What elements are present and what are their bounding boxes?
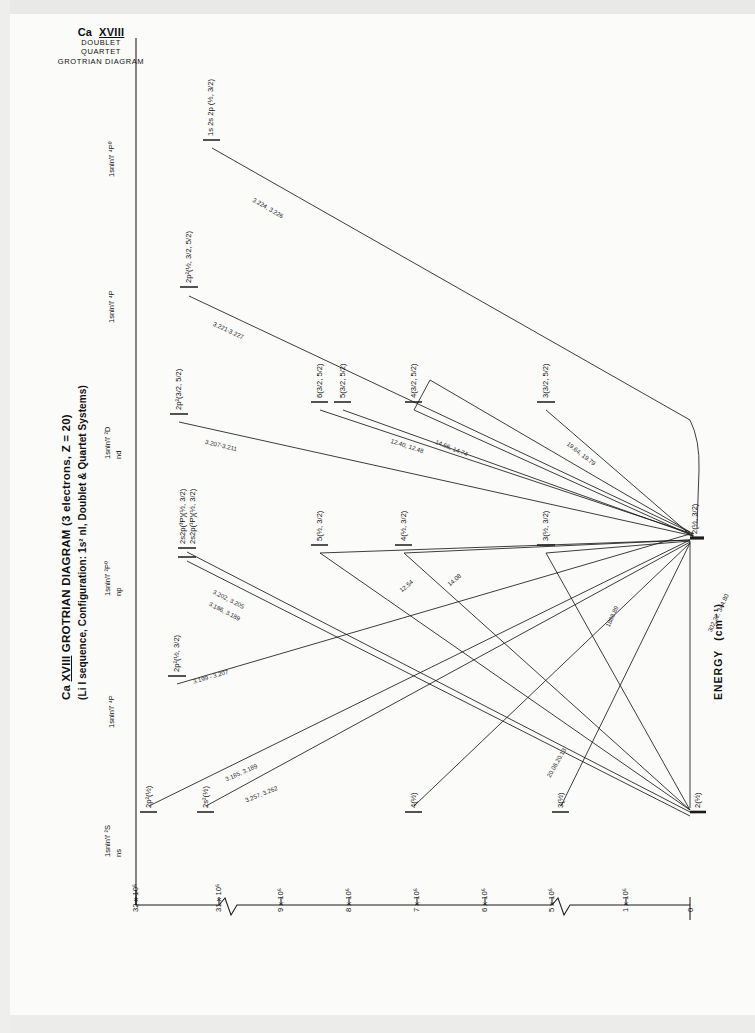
transition-line bbox=[414, 410, 693, 536]
column-sub-c4: np bbox=[114, 588, 123, 596]
level-label-L12: 3(½, 3/2) bbox=[541, 511, 550, 541]
transition-line bbox=[187, 561, 690, 816]
transition-line bbox=[320, 553, 690, 810]
level-label-L15: 2p²(½) bbox=[144, 786, 153, 808]
column-term-c3: 1snln'l' ²D bbox=[103, 427, 112, 459]
level-label-L4: 6(3/2, 5/2) bbox=[315, 363, 324, 398]
column-term-c1: 1snln'l' ⁴Pº bbox=[107, 141, 116, 177]
column-sub-c3: nd bbox=[114, 451, 123, 459]
transition-line bbox=[561, 543, 690, 806]
level-label-L6: 4(3/2, 5/2) bbox=[409, 363, 418, 398]
axis-tick-label: 9 x 10⁶ bbox=[276, 888, 285, 912]
level-label-L18: 3(½) bbox=[556, 792, 565, 808]
axis-tick-label: 8 x 10⁶ bbox=[344, 888, 353, 912]
level-label-L19: 2(½) bbox=[693, 792, 702, 808]
axis-tick-label: 6 x 10⁶ bbox=[480, 888, 489, 912]
transition-line bbox=[546, 553, 690, 810]
figure-page: Ca XVIII DOUBLET QUARTET GROTRIAN DIAGRA… bbox=[0, 0, 755, 1033]
column-sub-c6: ns bbox=[114, 849, 123, 857]
level-label-L14: 2p²(½, 3/2) bbox=[172, 635, 181, 672]
transition-line bbox=[320, 540, 690, 553]
axis-tick-label: 31 x 10⁶ bbox=[214, 884, 223, 912]
transition-line bbox=[414, 380, 690, 532]
level-label-L9: 2s2p(¹P)(½, 3/2) bbox=[188, 489, 197, 544]
level-label-L3: 2p²(3/2, 5/2) bbox=[174, 369, 183, 410]
level-label-L8: 2s2p(³P)(½, 3/2) bbox=[178, 489, 187, 544]
transition-line bbox=[546, 410, 693, 537]
axis-tick-label: 1 x 10⁶ bbox=[621, 888, 630, 912]
level-label-L7: 3(3/2, 5/2) bbox=[541, 363, 550, 398]
transition-line bbox=[212, 148, 699, 528]
axis-tick-label: 32 x 10⁶ bbox=[131, 884, 140, 912]
transition-lines-group bbox=[149, 148, 699, 816]
axis-tick-label: 0 bbox=[686, 908, 695, 912]
axes-group bbox=[136, 38, 690, 920]
level-label-L5: 5(3/2, 5/2) bbox=[338, 363, 347, 398]
level-label-L10: 5(½, 3/2) bbox=[315, 511, 324, 541]
column-term-c6: 1snln'l' ²S bbox=[103, 825, 112, 857]
transition-line bbox=[187, 552, 690, 812]
level-label-L16: 2s²(½) bbox=[201, 786, 210, 808]
level-label-L2: 2p²(½, 3/2, 5/2) bbox=[184, 231, 193, 283]
column-term-c5: 1snln'l' ⁴P bbox=[107, 695, 116, 728]
level-label-L11: 4(½, 3/2) bbox=[399, 511, 408, 541]
transition-line bbox=[189, 296, 694, 534]
column-term-c4: 1snln'l' ²Pº bbox=[103, 561, 112, 596]
axis-tick-label: 7 x 10⁶ bbox=[412, 888, 421, 912]
transition-line bbox=[149, 540, 690, 806]
level-label-L13: 2(½, 3/2) bbox=[690, 504, 699, 534]
level-label-L1: 1s 2s 2p (½, 3/2) bbox=[206, 79, 215, 136]
column-term-c2: 1snln'l' ⁴P bbox=[107, 290, 116, 323]
transition-line bbox=[343, 410, 693, 535]
axis-tick-label: 5 x 10⁶ bbox=[547, 888, 556, 912]
level-label-L17: 4(½) bbox=[409, 792, 418, 808]
